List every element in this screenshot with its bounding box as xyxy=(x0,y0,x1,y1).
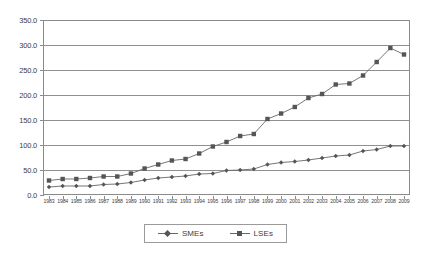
data-point xyxy=(361,149,365,153)
data-point xyxy=(156,162,160,166)
x-tick-label: 1984 xyxy=(57,198,68,204)
y-tick-label: 100.0 xyxy=(19,141,37,150)
series-line xyxy=(49,146,404,187)
series-lses xyxy=(47,46,406,183)
x-tick-label: 2004 xyxy=(330,198,341,204)
data-point xyxy=(293,105,297,109)
data-point xyxy=(388,144,392,148)
x-tick-label: 2001 xyxy=(289,198,300,204)
data-point xyxy=(129,171,133,175)
data-point xyxy=(279,160,283,164)
y-axis: 0.050.0100.0150.0200.0250.0300.0350.0 xyxy=(0,20,40,195)
data-point xyxy=(306,158,310,162)
legend-label-smes: SMEs xyxy=(182,229,204,238)
y-tick-label: 250.0 xyxy=(19,66,37,75)
data-point xyxy=(402,52,406,56)
data-point xyxy=(279,111,283,115)
data-point xyxy=(142,166,146,170)
data-point xyxy=(388,46,392,50)
data-point xyxy=(197,151,201,155)
data-point xyxy=(197,172,201,176)
x-tick-label: 2006 xyxy=(358,198,369,204)
y-tick-label: 350.0 xyxy=(19,16,37,25)
data-point xyxy=(224,168,228,172)
x-tick-label: 1985 xyxy=(71,198,82,204)
legend-item-smes[interactable]: SMEs xyxy=(158,229,204,238)
diamond-marker-icon xyxy=(158,229,178,238)
x-tick-label: 1995 xyxy=(207,198,218,204)
data-point xyxy=(170,158,174,162)
data-point xyxy=(320,92,324,96)
x-tick-label: 1989 xyxy=(125,198,136,204)
x-tick-label: 1987 xyxy=(98,198,109,204)
series-layer xyxy=(43,20,410,195)
x-tick-label: 1994 xyxy=(194,198,205,204)
data-point xyxy=(306,96,310,100)
x-tick-label: 2002 xyxy=(303,198,314,204)
data-point xyxy=(238,168,242,172)
data-point xyxy=(156,176,160,180)
y-tick-label: 150.0 xyxy=(19,116,37,125)
data-point xyxy=(183,157,187,161)
x-tick-label: 1988 xyxy=(112,198,123,204)
x-tick-label: 2008 xyxy=(385,198,396,204)
data-point xyxy=(211,171,215,175)
x-tick-label: 1991 xyxy=(153,198,164,204)
data-point xyxy=(88,184,92,188)
x-tick-label: 2007 xyxy=(371,198,382,204)
x-tick-label: 1993 xyxy=(180,198,191,204)
data-point xyxy=(101,182,105,186)
x-axis: 1983198419851986198719881989199019911992… xyxy=(43,196,410,210)
x-tick-label: 1998 xyxy=(248,198,259,204)
data-point xyxy=(115,174,119,178)
data-point xyxy=(374,60,378,64)
y-tick-label: 200.0 xyxy=(19,91,37,100)
y-tick-label: 50.0 xyxy=(23,166,37,175)
x-tick-label: 2003 xyxy=(317,198,328,204)
data-point xyxy=(60,184,64,188)
data-point xyxy=(211,144,215,148)
data-point xyxy=(334,82,338,86)
legend-label-lses: LSEs xyxy=(254,229,274,238)
data-point xyxy=(293,159,297,163)
x-tick-label: 1999 xyxy=(262,198,273,204)
data-point xyxy=(265,117,269,121)
y-tick-label: 300.0 xyxy=(19,41,37,50)
data-point xyxy=(238,134,242,138)
x-tick-label: 2005 xyxy=(344,198,355,204)
y-tick-label: 0.0 xyxy=(27,191,37,200)
data-point xyxy=(170,175,174,179)
data-point xyxy=(129,180,133,184)
x-tick-label: 1990 xyxy=(139,198,150,204)
data-point xyxy=(265,162,269,166)
x-tick-label: 1996 xyxy=(221,198,232,204)
data-point xyxy=(334,154,338,158)
data-point xyxy=(374,147,378,151)
x-tick-label: 1992 xyxy=(166,198,177,204)
series-smes xyxy=(47,144,406,189)
series-line xyxy=(49,48,404,181)
data-point xyxy=(88,176,92,180)
data-point xyxy=(320,156,324,160)
x-tick-label: 2000 xyxy=(276,198,287,204)
data-point xyxy=(402,144,406,148)
data-point xyxy=(361,73,365,77)
data-point xyxy=(183,174,187,178)
data-point xyxy=(224,140,228,144)
data-point xyxy=(142,178,146,182)
data-point xyxy=(101,174,105,178)
square-marker-icon xyxy=(230,229,250,238)
data-point xyxy=(47,178,51,182)
x-tick-label: 2009 xyxy=(399,198,410,204)
chart-legend: SMEs LSEs xyxy=(144,224,287,243)
data-point xyxy=(252,167,256,171)
data-point xyxy=(74,177,78,181)
legend-item-lses[interactable]: LSEs xyxy=(230,229,274,238)
data-point xyxy=(47,185,51,189)
data-point xyxy=(347,153,351,157)
data-point xyxy=(347,81,351,85)
data-point xyxy=(115,182,119,186)
data-point xyxy=(74,184,78,188)
line-chart: 0.050.0100.0150.0200.0250.0300.0350.0 19… xyxy=(0,0,427,259)
plot-area xyxy=(43,20,410,195)
